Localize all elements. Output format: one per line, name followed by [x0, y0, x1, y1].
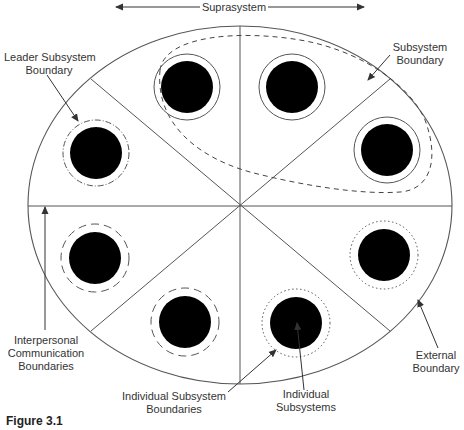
leader-subsystem-boundary-line2: Boundary: [4, 64, 94, 77]
individual-subsystem: [262, 289, 330, 357]
leader-subsystem: [63, 120, 129, 186]
figure-caption: Figure 3.1: [6, 414, 63, 428]
individual-subsystem: [350, 221, 418, 289]
icb-line2: Communication: [6, 347, 86, 360]
individual-subsystem-boundaries-label: Individual Subsystem Boundaries: [118, 390, 230, 416]
subsystem-boundary-line2: Boundary: [390, 54, 450, 67]
individual-subsystem: [259, 54, 325, 120]
individual-subsystem: [151, 288, 219, 356]
eb-line2: Boundary: [408, 362, 464, 375]
suprasystem-text: Suprasystem: [202, 1, 266, 13]
subsystem-boundary-line1: Subsystem: [390, 41, 450, 54]
leader-subsystem-boundary-line1: Leader Subsystem: [4, 51, 94, 64]
icb-line3: Boundaries: [6, 360, 86, 373]
label-arrows: [45, 55, 438, 392]
leader-subsystem-boundary-label: Leader Subsystem Boundary: [4, 51, 94, 77]
interpersonal-communication-boundaries-label: Interpersonal Communication Boundaries: [6, 334, 86, 373]
interpersonal-communication-boundaries: [28, 26, 452, 384]
suprasystem-label: Suprasystem: [200, 1, 268, 14]
individual-subsystems-label: Individual Subsystems: [272, 388, 340, 414]
individual-subsystem: [154, 54, 220, 120]
is-line2: Subsystems: [272, 401, 340, 414]
isb-line1: Individual Subsystem: [118, 390, 230, 403]
icb-line1: Interpersonal: [6, 334, 86, 347]
individual-subsystem: [354, 117, 420, 183]
is-line1: Individual: [272, 388, 340, 401]
eb-line1: External: [408, 349, 464, 362]
external-boundary-label: External Boundary: [408, 349, 464, 375]
individual-subsystem: [61, 224, 129, 292]
subsystem-boundary-label: Subsystem Boundary: [390, 41, 450, 67]
isb-line2: Boundaries: [118, 403, 230, 416]
